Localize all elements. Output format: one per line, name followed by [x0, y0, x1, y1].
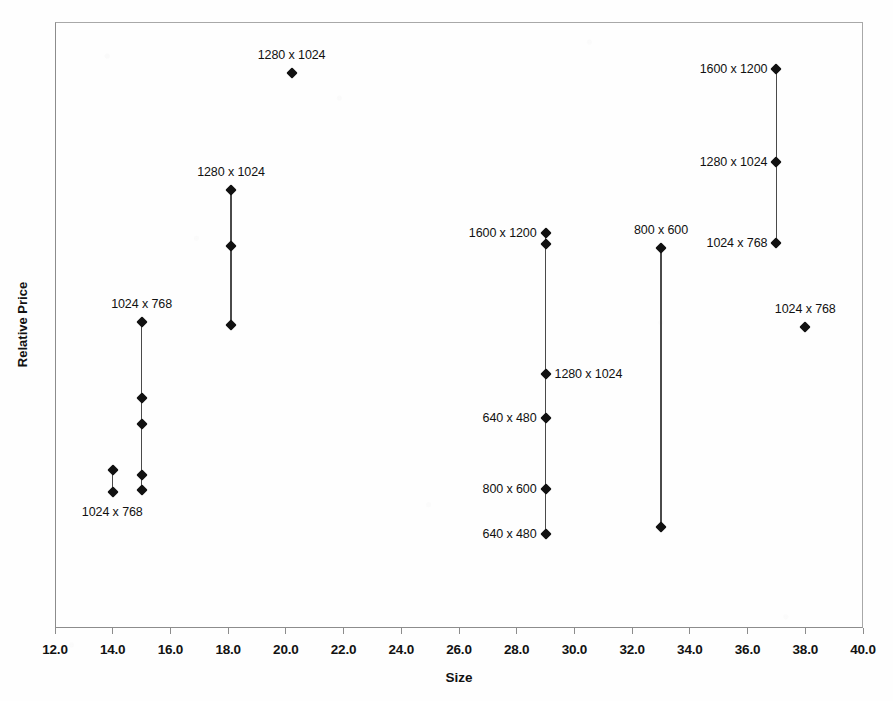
data-point-label: 1024 x 768 — [775, 302, 836, 316]
x-tick-24.0 — [401, 628, 402, 634]
series-connector-group-15 — [141, 322, 142, 490]
x-tick-34.0 — [689, 628, 690, 634]
data-point-label: 1280 x 1024 — [258, 48, 326, 62]
x-tick-16.0 — [170, 628, 171, 634]
series-connector-group-33 — [660, 248, 661, 527]
x-axis-title: Size — [55, 670, 863, 685]
data-point-label: 1280 x 1024 — [700, 155, 768, 169]
x-tick-38.0 — [805, 628, 806, 634]
scatter-chart: 12.014.016.018.020.022.024.026.028.030.0… — [0, 0, 893, 701]
data-point-label: 800 x 600 — [634, 223, 688, 237]
x-tick-28.0 — [516, 628, 517, 634]
series-connector-group-18 — [230, 190, 231, 325]
data-point-label: 1024 x 768 — [707, 236, 768, 250]
x-tick-30.0 — [574, 628, 575, 634]
data-point-label: 1280 x 1024 — [197, 165, 265, 179]
x-tick-40.0 — [863, 628, 864, 634]
x-tick-18.0 — [228, 628, 229, 634]
data-point-label: 1600 x 1200 — [700, 62, 768, 76]
data-point-label: 1600 x 1200 — [469, 226, 537, 240]
data-point-label: 1280 x 1024 — [555, 367, 623, 381]
x-tick-20.0 — [285, 628, 286, 634]
data-point-label: 640 x 480 — [483, 527, 537, 541]
data-point-label: 1024 x 768 — [82, 505, 143, 519]
data-point-label: 640 x 480 — [483, 411, 537, 425]
x-tick-32.0 — [632, 628, 633, 634]
y-axis-title: Relative Price — [15, 265, 30, 385]
x-tick-22.0 — [343, 628, 344, 634]
x-tick-36.0 — [747, 628, 748, 634]
x-tick-label-40.0: 40.0 — [828, 642, 893, 657]
data-point-label: 800 x 600 — [483, 482, 537, 496]
x-tick-14.0 — [112, 628, 113, 634]
data-point-label: 1024 x 768 — [111, 297, 172, 311]
x-tick-26.0 — [459, 628, 460, 634]
plot-area-frame — [55, 22, 863, 628]
x-tick-12.0 — [55, 628, 56, 634]
